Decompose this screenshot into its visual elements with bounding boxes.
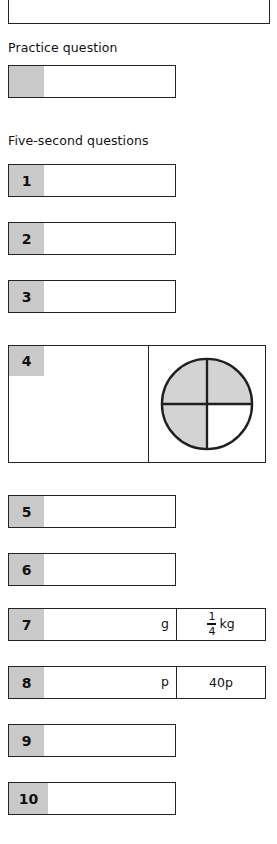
answer-row-10[interactable]: 10 xyxy=(8,782,176,815)
answer-row-3[interactable]: 3 xyxy=(8,280,176,313)
question-7-given-value: 1 4 kg xyxy=(176,609,265,640)
practice-answer-field[interactable] xyxy=(44,66,175,97)
question-number-10: 10 xyxy=(9,783,48,814)
fraction-unit: kg xyxy=(219,618,234,631)
question-number-3: 3 xyxy=(9,281,44,312)
answer-row-7[interactable]: 7 g 1 4 kg xyxy=(8,608,266,641)
answer-unit-8: p xyxy=(161,676,176,689)
question-number-4: 4 xyxy=(9,346,44,376)
answer-unit-7: g xyxy=(161,618,176,631)
answer-field-7[interactable]: g xyxy=(44,609,176,640)
question-number-2: 2 xyxy=(9,223,44,254)
worksheet-page: Practice question Five-second questions … xyxy=(0,0,277,844)
question-number-9: 9 xyxy=(9,725,44,756)
question-number-1: 1 xyxy=(9,165,44,196)
fraction-denominator: 4 xyxy=(207,626,216,637)
answer-row-6[interactable]: 6 xyxy=(8,553,176,586)
answer-field-9[interactable] xyxy=(44,725,175,756)
question-number-8: 8 xyxy=(9,667,44,698)
answer-field-6[interactable] xyxy=(44,554,175,585)
question-8-given-value: 40p xyxy=(176,667,265,698)
answer-field-3[interactable] xyxy=(44,281,175,312)
fraction-one-quarter: 1 4 xyxy=(207,611,216,637)
answer-field-4[interactable]: 4 xyxy=(9,346,148,462)
practice-number-cell xyxy=(9,66,44,97)
clipped-top-answer-box xyxy=(8,0,270,24)
question-4-figure-cell xyxy=(148,346,265,462)
answer-field-5[interactable] xyxy=(44,496,175,527)
fraction-numerator: 1 xyxy=(207,611,216,622)
answer-row-2[interactable]: 2 xyxy=(8,222,176,255)
answer-row-1[interactable]: 1 xyxy=(8,164,176,197)
answer-row-5[interactable]: 5 xyxy=(8,495,176,528)
answer-field-2[interactable] xyxy=(44,223,175,254)
question-number-5: 5 xyxy=(9,496,44,527)
five-second-questions-heading: Five-second questions xyxy=(8,133,149,148)
answer-row-4[interactable]: 4 xyxy=(8,345,266,463)
answer-row-9[interactable]: 9 xyxy=(8,724,176,757)
answer-field-1[interactable] xyxy=(44,165,175,196)
practice-answer-box[interactable] xyxy=(8,65,176,98)
question-number-6: 6 xyxy=(9,554,44,585)
quarter-shaded-circle-icon xyxy=(158,355,256,453)
question-number-7: 7 xyxy=(9,609,44,640)
answer-field-10[interactable] xyxy=(48,783,175,814)
practice-question-heading: Practice question xyxy=(8,40,118,55)
answer-field-8[interactable]: p xyxy=(44,667,176,698)
answer-row-8[interactable]: 8 p 40p xyxy=(8,666,266,699)
